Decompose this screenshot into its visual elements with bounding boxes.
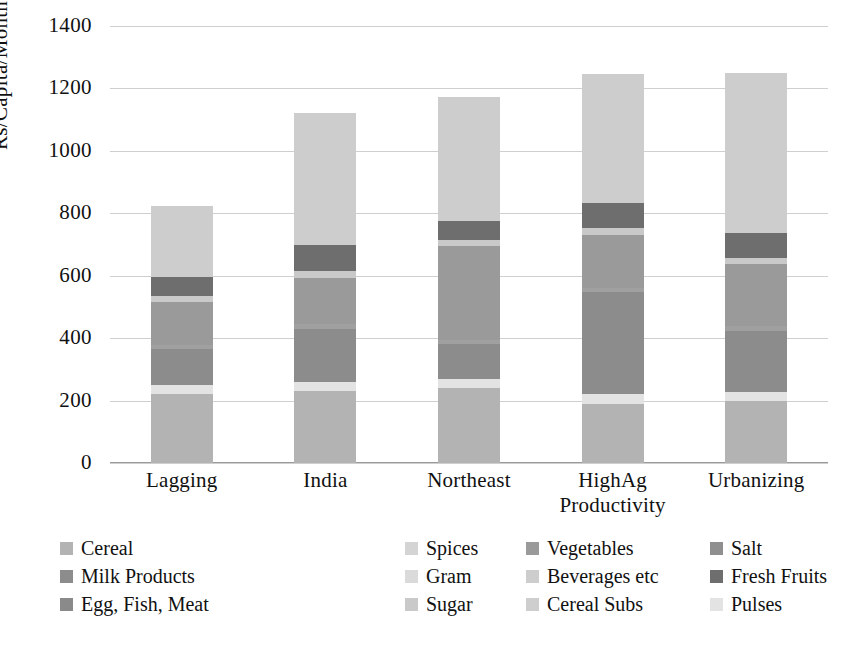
bar-segment[interactable]	[151, 302, 213, 346]
legend-item[interactable]: Fresh Fruits	[710, 566, 827, 586]
bar-stack[interactable]	[294, 113, 356, 463]
legend-label: Beverages etc	[547, 566, 659, 586]
stacked-bar-chart: Rs/Capita/Month 020040060080010001200140…	[0, 0, 843, 652]
y-tick-label: 200	[0, 390, 92, 411]
bar-segment[interactable]	[438, 246, 500, 340]
legend-label: Pulses	[731, 594, 782, 614]
bar-segment[interactable]	[294, 391, 356, 463]
legend-item[interactable]: Milk Products	[60, 566, 195, 586]
bar-segment[interactable]	[725, 73, 787, 233]
legend-label: Egg, Fish, Meat	[81, 594, 209, 614]
bar-segment[interactable]	[151, 206, 213, 277]
y-tick-label: 1000	[0, 140, 92, 161]
legend-item[interactable]: Salt	[710, 538, 762, 558]
legend-swatch-icon	[405, 570, 418, 583]
legend-item[interactable]: Sugar	[405, 594, 473, 614]
bar-stack[interactable]	[438, 97, 500, 463]
bar-stack[interactable]	[582, 74, 644, 463]
legend-swatch-icon	[60, 570, 73, 583]
bar-segment[interactable]	[582, 292, 644, 393]
legend-label: Milk Products	[81, 566, 195, 586]
y-tick-label: 1200	[0, 77, 92, 98]
bar-segment[interactable]	[725, 401, 787, 463]
bar-segment[interactable]	[582, 235, 644, 288]
legend-swatch-icon	[526, 542, 539, 555]
bar-segment[interactable]	[725, 264, 787, 326]
chart-legend: CerealSpicesVegetablesSaltEdible OilMilk…	[60, 538, 843, 616]
legend-label: Fresh Fruits	[731, 566, 827, 586]
bar-segment[interactable]	[438, 344, 500, 378]
bar-segment[interactable]	[438, 221, 500, 240]
legend-label: Gram	[426, 566, 472, 586]
legend-swatch-icon	[710, 570, 723, 583]
bar-stack[interactable]	[725, 73, 787, 463]
bar-segment[interactable]	[151, 385, 213, 394]
bar-segment[interactable]	[294, 382, 356, 391]
bar-segment[interactable]	[438, 97, 500, 221]
y-tick-label: 0	[0, 452, 92, 473]
legend-label: Spices	[426, 538, 478, 558]
bar-segment[interactable]	[582, 394, 644, 404]
legend-label: Sugar	[426, 594, 473, 614]
legend-swatch-icon	[60, 598, 73, 611]
bar-series-container	[110, 26, 828, 463]
y-tick-label: 600	[0, 265, 92, 286]
legend-swatch-icon	[710, 598, 723, 611]
legend-swatch-icon	[526, 598, 539, 611]
legend-label: Cereal	[81, 538, 133, 558]
bar-segment[interactable]	[151, 277, 213, 296]
legend-item[interactable]: Pulses	[710, 594, 782, 614]
y-tick-label: 1400	[0, 15, 92, 36]
legend-label: Salt	[731, 538, 762, 558]
bar-segment[interactable]	[582, 74, 644, 203]
gridline	[110, 463, 828, 464]
bar-segment[interactable]	[151, 349, 213, 385]
x-tick-label: Northeast	[397, 468, 541, 493]
legend-item[interactable]: Beverages etc	[526, 566, 659, 586]
legend-swatch-icon	[405, 598, 418, 611]
legend-swatch-icon	[710, 542, 723, 555]
legend-label: Cereal Subs	[547, 594, 643, 614]
x-tick-label: India	[254, 468, 398, 493]
x-tick-label: HighAg Productivity	[541, 468, 685, 518]
y-tick-label: 800	[0, 202, 92, 223]
bar-segment[interactable]	[725, 331, 787, 392]
bar-segment[interactable]	[725, 233, 787, 258]
x-tick-label: Urbanizing	[684, 468, 828, 493]
bar-segment[interactable]	[294, 245, 356, 272]
legend-item[interactable]: Spices	[405, 538, 478, 558]
bar-segment[interactable]	[294, 113, 356, 245]
bar-segment[interactable]	[582, 404, 644, 463]
x-axis-tick-labels: LaggingIndiaNortheastHighAg Productivity…	[110, 468, 828, 528]
legend-item[interactable]: Cereal Subs	[526, 594, 643, 614]
x-tick-label: Lagging	[110, 468, 254, 493]
bar-segment[interactable]	[151, 394, 213, 463]
bar-segment[interactable]	[438, 388, 500, 463]
bar-stack[interactable]	[151, 206, 213, 463]
bar-segment[interactable]	[582, 203, 644, 229]
legend-swatch-icon	[405, 542, 418, 555]
legend-item[interactable]: Egg, Fish, Meat	[60, 594, 209, 614]
y-tick-label: 400	[0, 327, 92, 348]
legend-swatch-icon	[60, 542, 73, 555]
legend-item[interactable]: Gram	[405, 566, 472, 586]
bar-segment[interactable]	[438, 379, 500, 388]
legend-label: Vegetables	[547, 538, 634, 558]
bar-segment[interactable]	[725, 392, 787, 401]
legend-swatch-icon	[526, 570, 539, 583]
bar-segment[interactable]	[294, 329, 356, 382]
bar-segment[interactable]	[294, 278, 356, 325]
legend-item[interactable]: Vegetables	[526, 538, 634, 558]
legend-item[interactable]: Cereal	[60, 538, 133, 558]
